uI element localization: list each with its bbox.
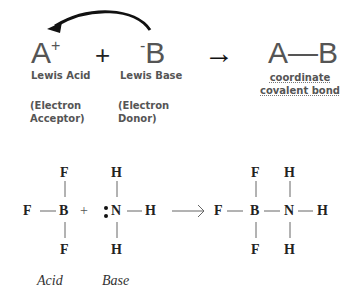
- base-label-italic: Base: [102, 273, 129, 289]
- base-description: (ElectronDonor): [118, 99, 169, 125]
- product-n: N: [284, 204, 294, 218]
- lewis-base-symbol: -B: [140, 38, 165, 68]
- coordinate-covalent-bond-label: coordinatecovalent bond: [260, 71, 340, 97]
- nh3-n: N: [111, 204, 121, 218]
- product-h-right: H: [317, 204, 328, 218]
- plus-sign: +: [95, 40, 110, 71]
- bf3-f-left: F: [23, 204, 32, 218]
- lewis-base-label: Lewis Base: [120, 69, 182, 82]
- nh3-h-top: H: [111, 166, 122, 180]
- product-f-left: F: [214, 204, 223, 218]
- acid-label-italic: Acid: [37, 273, 63, 289]
- curved-arrow-icon: [55, 12, 150, 30]
- product-h-bottom: H: [284, 243, 295, 257]
- product-ab: A—B: [268, 38, 338, 68]
- lone-pair-dot-icon: [104, 206, 108, 210]
- nh3-h-right: H: [145, 204, 156, 218]
- product-f-bottom: F: [251, 243, 260, 257]
- acid-description: (ElectronAcceptor): [30, 99, 85, 125]
- plus-sign-bottom: +: [80, 204, 88, 218]
- bf3-b: B: [59, 204, 68, 218]
- product-b: B: [250, 204, 259, 218]
- arrowhead-icon: [47, 22, 62, 33]
- nh3-h-bottom: H: [111, 243, 122, 257]
- reaction-arrow-icon: →: [204, 38, 234, 68]
- bf3-f-top: F: [60, 166, 69, 180]
- product-h-top: H: [284, 166, 295, 180]
- bf3-f-bottom: F: [60, 243, 69, 257]
- lone-pair-dot-icon: [104, 214, 108, 218]
- lewis-acid-label: Lewis Acid: [31, 69, 91, 82]
- lewis-acid-symbol: A+: [31, 38, 60, 68]
- product-f-top: F: [251, 166, 260, 180]
